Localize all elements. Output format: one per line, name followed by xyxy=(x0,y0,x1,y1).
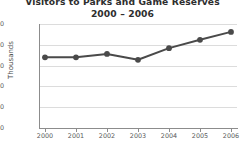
data-point-2000 xyxy=(42,54,48,60)
series-line-visitors xyxy=(45,32,231,60)
series-layer xyxy=(0,0,245,147)
data-point-2003 xyxy=(135,57,141,63)
data-point-2004 xyxy=(166,45,172,51)
data-point-2002 xyxy=(104,51,110,57)
data-point-2001 xyxy=(73,54,79,60)
chart-container: Visitors to Parks and Game Reserves 2000… xyxy=(0,0,245,147)
data-point-2005 xyxy=(197,37,203,43)
data-point-2006 xyxy=(228,29,234,35)
